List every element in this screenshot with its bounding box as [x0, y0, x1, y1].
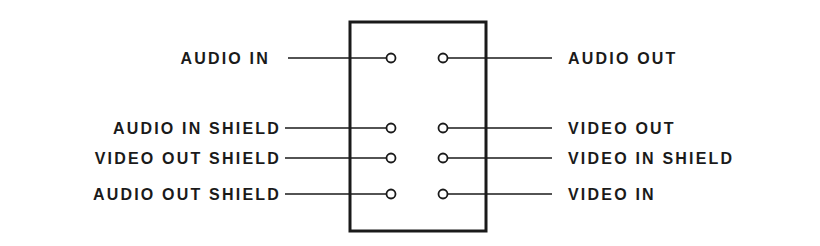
pin-circle-icon: [387, 190, 396, 199]
pin-circle-icon: [439, 124, 448, 133]
pin-circle-icon: [387, 124, 396, 133]
right-pin-video-out: VIDEO OUT: [439, 120, 676, 137]
connector-pinout-diagram: AUDIO IN AUDIO IN SHIELD VIDEO OUT SHIEL…: [0, 0, 820, 246]
right-pin-video-in-shield: VIDEO IN SHIELD: [439, 150, 735, 167]
right-pin-video-in: VIDEO IN: [439, 186, 656, 203]
left-pin-audio-in-shield: AUDIO IN SHIELD: [113, 120, 396, 137]
connector-box: [350, 22, 486, 231]
pin-label: AUDIO OUT SHIELD: [93, 186, 281, 203]
pin-label: VIDEO OUT: [568, 120, 676, 137]
pin-label: AUDIO OUT: [568, 50, 678, 67]
pin-label: VIDEO OUT SHIELD: [95, 150, 281, 167]
pin-label: VIDEO IN SHIELD: [568, 150, 734, 167]
left-pin-audio-in: AUDIO IN: [180, 50, 395, 67]
pin-label: AUDIO IN SHIELD: [113, 120, 281, 137]
pin-circle-icon: [439, 54, 448, 63]
pin-label: AUDIO IN: [180, 50, 270, 67]
pin-label: VIDEO IN: [568, 186, 656, 203]
pin-circle-icon: [439, 190, 448, 199]
pin-circle-icon: [439, 154, 448, 163]
pin-circle-icon: [387, 154, 396, 163]
right-pin-audio-out: AUDIO OUT: [439, 50, 678, 67]
pin-circle-icon: [387, 54, 396, 63]
